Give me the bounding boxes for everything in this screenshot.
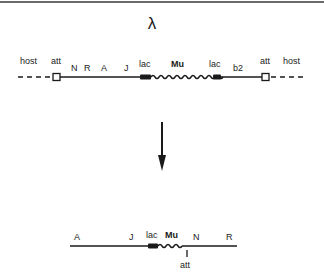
label-R: R [84, 63, 91, 73]
mu-prophage-wavy [151, 76, 223, 79]
lambda-title: λ [148, 14, 157, 33]
label-Mu: Mu [165, 230, 178, 240]
label-N: N [193, 232, 200, 242]
top-genetic-map: host att N R A J lac Mu lac b2 att host [18, 56, 304, 81]
mu-prophage-wavy [158, 245, 182, 248]
label-N: N [71, 63, 78, 73]
label-lac-right: lac [209, 59, 221, 69]
label-att: att [180, 260, 191, 270]
lac-block-left [140, 75, 151, 80]
label-J: J [124, 63, 129, 73]
label-lac: lac [146, 230, 158, 240]
label-att-left: att [51, 56, 62, 66]
bottom-genetic-map: A J lac Mu N R att [70, 230, 237, 270]
att-site-right-icon [262, 74, 269, 81]
lac-block [148, 244, 158, 249]
label-Mu: Mu [171, 59, 184, 69]
label-A: A [101, 63, 107, 73]
down-arrow-icon [158, 122, 166, 171]
label-lac-left: lac [139, 59, 151, 69]
label-A: A [74, 232, 80, 242]
label-host-left: host [20, 56, 38, 66]
label-att-right: att [260, 56, 271, 66]
lac-block-right [213, 75, 221, 80]
label-R: R [226, 232, 233, 242]
label-host-right: host [283, 56, 301, 66]
lambda-mu-integration-diagram: λ host att N R A J lac Mu lac b2 att hos… [0, 0, 324, 278]
att-site-left-icon [53, 74, 60, 81]
label-J: J [129, 232, 134, 242]
label-b2: b2 [233, 63, 243, 73]
